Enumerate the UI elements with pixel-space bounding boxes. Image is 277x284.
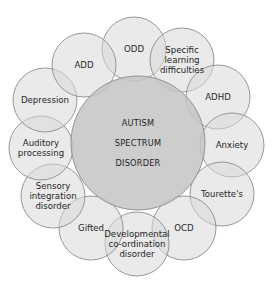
label-auditory-processing: Auditoryprocessing [18, 138, 64, 158]
label-ocd: OCD [174, 223, 194, 233]
label-adhd: ADHD [205, 92, 231, 102]
label-gifted: Gifted [78, 223, 104, 233]
label-specific-learning-difficulties: Specificlearningdifficulties [160, 45, 205, 74]
autism-comorbidity-diagram: AUTISMSPECTRUMDISORDER ODDSpecificlearni… [0, 0, 277, 284]
center-label: AUTISMSPECTRUMDISORDER [115, 118, 161, 168]
label-odd: ODD [124, 44, 144, 54]
label-depression: Depression [21, 95, 69, 105]
label-add: ADD [74, 60, 93, 70]
center-node: AUTISMSPECTRUMDISORDER [71, 76, 205, 210]
label-tourettes: Tourette's [200, 189, 244, 199]
label-anxiety: Anxiety [216, 140, 249, 150]
label-sensory-integration-disorder: Sensoryintegrationdisorder [29, 181, 76, 210]
